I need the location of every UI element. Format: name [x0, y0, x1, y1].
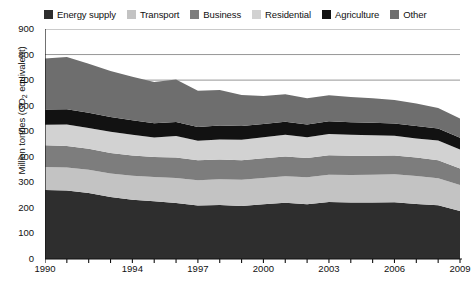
- y-axis-tick-label: 600: [8, 101, 34, 111]
- y-axis-tick-label: 800: [8, 50, 34, 60]
- legend-item-business[interactable]: Business: [190, 9, 241, 20]
- legend-item-label: Energy supply: [57, 9, 116, 20]
- y-axis-tick-label: 700: [8, 75, 34, 85]
- legend-swatch-icon: [322, 10, 331, 19]
- x-axis-tick-label: 1997: [182, 263, 214, 274]
- legend-swatch-icon: [44, 10, 53, 19]
- x-axis-tick-label: 2009: [444, 263, 473, 274]
- legend-item-energy-supply[interactable]: Energy supply: [44, 9, 116, 20]
- legend-item-label: Residential: [265, 9, 311, 20]
- x-axis-tick-label: 2000: [247, 263, 279, 274]
- legend-swatch-icon: [127, 10, 136, 19]
- x-axis-tick-label: 1990: [29, 263, 61, 274]
- legend-swatch-icon: [190, 10, 199, 19]
- x-axis-tick-label: 1994: [116, 263, 148, 274]
- legend-item-residential[interactable]: Residential: [252, 9, 311, 20]
- legend-item-label: Transport: [140, 9, 179, 20]
- x-axis-tick-label: 2006: [378, 263, 410, 274]
- stacked-area-chart: Energy supplyTransportBusinessResidentia…: [0, 0, 473, 287]
- y-axis-tick-label: 500: [8, 126, 34, 136]
- y-axis-tick-label: 300: [8, 177, 34, 187]
- plot-svg: [45, 29, 466, 265]
- legend-item-other[interactable]: Other: [390, 9, 426, 20]
- legend-item-agriculture[interactable]: Agriculture: [322, 9, 379, 20]
- legend-swatch-icon: [390, 10, 399, 19]
- y-axis-tick-label: 200: [8, 203, 34, 213]
- legend-swatch-icon: [252, 10, 261, 19]
- y-axis-ticks: 9008007006005004003002001000: [6, 0, 34, 287]
- y-axis-tick-label: 400: [8, 152, 34, 162]
- legend-item-label: Business: [203, 9, 241, 20]
- legend-item-transport[interactable]: Transport: [127, 9, 179, 20]
- y-axis-tick-label: 100: [8, 228, 34, 238]
- plot-area: [45, 29, 460, 259]
- x-axis-ticks: 1990199419972000200320062009: [0, 263, 473, 279]
- legend-item-label: Agriculture: [335, 9, 379, 20]
- legend-item-label: Other: [403, 9, 426, 20]
- x-axis-tick-label: 2003: [313, 263, 345, 274]
- y-axis-tick-label: 900: [8, 24, 34, 34]
- chart-legend: Energy supplyTransportBusinessResidentia…: [44, 6, 464, 22]
